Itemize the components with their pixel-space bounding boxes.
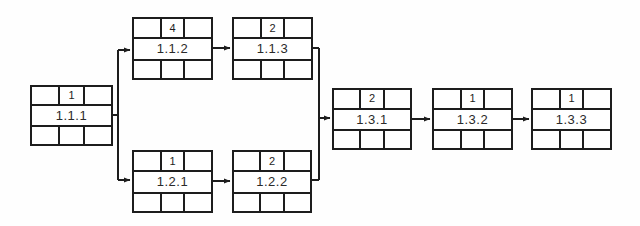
node-id-label: 1.1.1 [32, 108, 111, 123]
node-1-2-2[interactable]: 2 1.2.2 [232, 150, 312, 213]
node-cell-bot-right [584, 131, 610, 148]
node-cell-top-right [584, 90, 610, 108]
node-cell-bot-right [85, 127, 111, 144]
node-duration: 2 [359, 90, 384, 108]
node-bottom-row [234, 61, 311, 78]
node-mid-row: 1.1.3 [234, 39, 311, 61]
node-cell-top-left [134, 19, 160, 37]
node-1-1-2[interactable]: 4 1.1.2 [132, 17, 213, 80]
node-cell-bot-right [485, 131, 511, 148]
node-top-row: 2 [234, 19, 311, 39]
node-cell-top-right [485, 90, 511, 108]
node-cell-bot-mid [58, 127, 84, 144]
node-cell-top-right [285, 19, 311, 37]
node-bottom-row [234, 194, 310, 211]
node-cell-bot-right [185, 61, 211, 78]
node-cell-bot-right [385, 131, 410, 148]
node-cell-bot-mid [260, 61, 286, 78]
node-id-label: 1.1.3 [234, 41, 311, 56]
node-cell-bot-mid [359, 131, 384, 148]
node-cell-top-left [234, 152, 259, 170]
node-cell-bot-left [234, 61, 260, 78]
node-id-label: 1.3.3 [533, 112, 610, 127]
node-cell-bot-left [334, 131, 359, 148]
node-cell-top-right [85, 87, 111, 104]
node-mid-row: 1.3.3 [533, 110, 610, 131]
node-mid-row: 1.3.1 [334, 110, 410, 131]
node-top-row: 1 [533, 90, 610, 110]
node-cell-bot-left [533, 131, 559, 148]
node-bottom-row [334, 131, 410, 148]
node-duration: 1 [460, 90, 486, 108]
node-cell-top-left [32, 87, 58, 104]
node-1-1-3[interactable]: 2 1.1.3 [232, 17, 313, 80]
node-cell-bot-mid [160, 61, 186, 78]
node-top-row: 1 [134, 152, 211, 172]
node-duration: 2 [259, 152, 284, 170]
node-mid-row: 1.2.1 [134, 172, 211, 194]
node-duration: 1 [559, 90, 585, 108]
node-cell-top-left [334, 90, 359, 108]
node-1-1-1[interactable]: 1 1.1.1 [30, 85, 113, 146]
node-bottom-row [134, 194, 211, 211]
node-mid-row: 1.3.2 [434, 110, 511, 131]
node-id-label: 1.2.2 [234, 174, 310, 189]
node-cell-bot-mid [259, 194, 284, 211]
node-1-3-3[interactable]: 1 1.3.3 [531, 88, 612, 150]
node-1-3-2[interactable]: 1 1.3.2 [432, 88, 513, 150]
node-cell-bot-left [134, 61, 160, 78]
node-top-row: 4 [134, 19, 211, 39]
edge-1-1-1-split [113, 50, 130, 180]
node-bottom-row [134, 61, 211, 78]
node-id-label: 1.2.1 [134, 174, 211, 189]
node-cell-bot-left [134, 194, 160, 211]
node-cell-bot-right [185, 194, 211, 211]
node-duration: 1 [160, 152, 186, 170]
node-cell-top-right [185, 152, 211, 170]
node-duration: 2 [260, 19, 286, 37]
node-bottom-row [32, 127, 111, 144]
node-cell-bot-mid [460, 131, 486, 148]
node-mid-row: 1.1.1 [32, 106, 111, 127]
node-cell-bot-left [234, 194, 259, 211]
node-cell-bot-mid [559, 131, 585, 148]
node-cell-bot-left [32, 127, 58, 144]
node-cell-top-right [285, 152, 310, 170]
node-bottom-row [434, 131, 511, 148]
edge-merge-to-1-3-1 [312, 48, 330, 180]
node-cell-top-left [134, 152, 160, 170]
node-cell-bot-right [285, 61, 311, 78]
node-top-row: 1 [434, 90, 511, 110]
node-id-label: 1.1.2 [134, 41, 211, 56]
node-cell-top-right [385, 90, 410, 108]
node-duration: 1 [58, 87, 84, 104]
node-cell-bot-left [434, 131, 460, 148]
node-cell-top-right [185, 19, 211, 37]
node-mid-row: 1.2.2 [234, 172, 310, 194]
node-id-label: 1.3.2 [434, 112, 511, 127]
node-1-3-1[interactable]: 2 1.3.1 [332, 88, 412, 150]
node-cell-top-left [234, 19, 260, 37]
node-mid-row: 1.1.2 [134, 39, 211, 61]
node-id-label: 1.3.1 [334, 112, 410, 127]
node-top-row: 1 [32, 87, 111, 106]
node-1-2-1[interactable]: 1 1.2.1 [132, 150, 213, 213]
node-cell-bot-right [285, 194, 310, 211]
node-cell-bot-mid [160, 194, 186, 211]
node-top-row: 2 [234, 152, 310, 172]
node-cell-top-left [533, 90, 559, 108]
node-bottom-row [533, 131, 610, 148]
node-duration: 4 [160, 19, 186, 37]
network-diagram: 1 1.1.1 4 1.1.2 2 [0, 0, 640, 226]
node-cell-top-left [434, 90, 460, 108]
node-top-row: 2 [334, 90, 410, 110]
